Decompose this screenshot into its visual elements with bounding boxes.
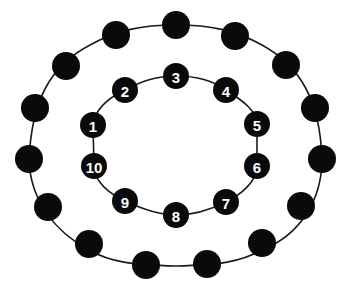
- outer-ring-bead: [162, 11, 190, 39]
- inner-ring-beads: 12345678910: [80, 63, 270, 228]
- outer-ring-bead: [308, 145, 336, 173]
- inner-ring-bead-label: 1: [89, 118, 97, 135]
- inner-ring-bead-label: 3: [172, 69, 180, 86]
- inner-ring-bead-label: 4: [222, 83, 231, 100]
- outer-ring-bead: [15, 145, 43, 173]
- diagram-canvas: 12345678910: [0, 0, 345, 288]
- outer-ring-beads: [15, 11, 336, 279]
- bead-ring-diagram: 12345678910: [0, 0, 345, 288]
- outer-ring-bead: [102, 21, 130, 49]
- outer-ring-bead: [301, 94, 329, 122]
- inner-ring-bead-label: 6: [253, 159, 261, 176]
- inner-ring-bead-label: 2: [121, 83, 129, 100]
- inner-ring-bead-label: 5: [253, 117, 261, 134]
- outer-ring-bead: [287, 192, 315, 220]
- outer-ring-bead: [75, 230, 103, 258]
- outer-ring-bead: [248, 229, 276, 257]
- outer-ring-bead: [221, 22, 249, 50]
- inner-ring-bead-label: 9: [121, 194, 129, 211]
- outer-ring-bead: [132, 251, 160, 279]
- outer-ring-bead: [272, 51, 300, 79]
- outer-ring-bead: [21, 94, 49, 122]
- inner-ring-bead-label: 8: [172, 208, 180, 225]
- inner-ring-bead-label: 7: [222, 195, 230, 212]
- outer-ring-bead: [193, 250, 221, 278]
- inner-ring-bead-label: 10: [86, 159, 103, 176]
- outer-ring-bead: [52, 52, 80, 80]
- outer-ring-bead: [34, 193, 62, 221]
